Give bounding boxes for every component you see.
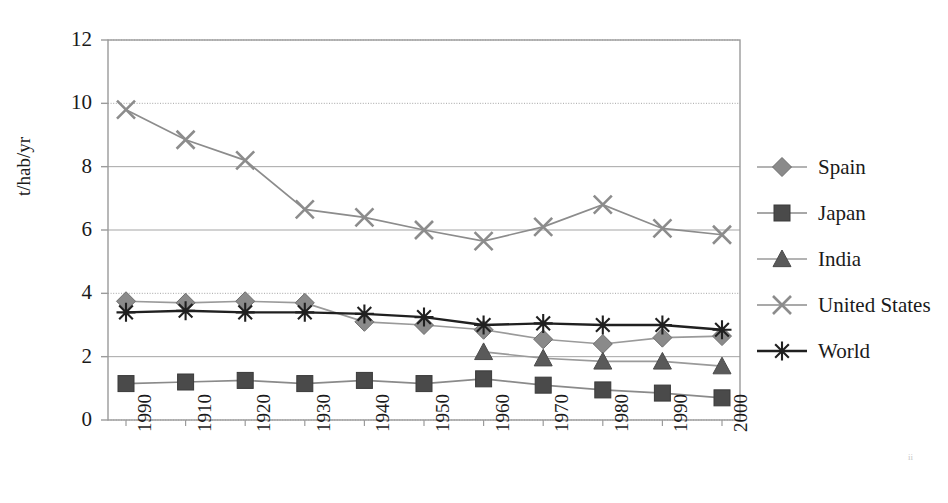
marker-cross [117, 101, 135, 119]
y-tick-label: 0 [52, 409, 92, 430]
marker-square [237, 372, 253, 388]
legend-label: India [818, 247, 861, 272]
marker-asterisk [176, 301, 195, 320]
legend-marker-square-icon [756, 202, 808, 224]
legend-marker-diamond-icon [756, 156, 808, 178]
marker-asterisk [593, 316, 612, 335]
x-tick-label: 1960 [493, 394, 512, 432]
marker-square [476, 371, 492, 387]
legend-label: Japan [818, 201, 866, 226]
y-axis-title: t/hab/yr [14, 137, 33, 196]
marker-asterisk [653, 316, 672, 335]
x-tick-label: 2000 [731, 394, 750, 432]
marker-square [535, 377, 551, 393]
y-tick-label: 6 [52, 219, 92, 240]
marker-diamond [593, 335, 612, 354]
marker-cross [475, 232, 493, 250]
series-line [126, 110, 722, 241]
x-tick-label: 1910 [195, 394, 214, 432]
x-tick-label: 1990 [135, 394, 154, 432]
marker-asterisk [534, 314, 553, 333]
x-tick-label: 1920 [254, 394, 273, 432]
marker-square [774, 205, 790, 221]
y-tick-label: 12 [52, 29, 92, 50]
y-tick-label: 10 [52, 92, 92, 113]
legend-item-united-states[interactable]: United States [756, 282, 946, 328]
legend-marker-cross-icon [756, 294, 808, 316]
legend-label: United States [818, 293, 931, 318]
marker-asterisk [773, 342, 792, 361]
marker-diamond [773, 158, 792, 177]
marker-triangle [475, 343, 493, 360]
marker-square [118, 376, 134, 392]
series-united-states [117, 101, 731, 250]
y-tick-label: 8 [52, 156, 92, 177]
marker-square [416, 376, 432, 392]
x-tick-label: 1980 [612, 394, 631, 432]
x-tick-label: 1970 [552, 394, 571, 432]
y-tick-label: 4 [52, 282, 92, 303]
marker-asterisk [295, 303, 314, 322]
marker-cross [594, 196, 612, 214]
legend-label: World [818, 339, 870, 364]
legend-item-spain[interactable]: Spain [756, 144, 946, 190]
legend-marker-triangle-icon [756, 248, 808, 270]
chart-legend: SpainJapanIndiaUnited StatesWorld [756, 144, 946, 374]
marker-cross [534, 218, 552, 236]
x-tick-label: 1990 [671, 394, 690, 432]
marker-asterisk [415, 308, 434, 327]
marker-square [714, 390, 730, 406]
legend-marker-asterisk-icon [756, 340, 808, 362]
legend-item-world[interactable]: World [756, 328, 946, 374]
marker-asterisk [117, 303, 136, 322]
marker-square [356, 372, 372, 388]
x-tick-label: 1950 [433, 394, 452, 432]
legend-label: Spain [818, 155, 866, 180]
y-tick-label: 2 [52, 346, 92, 367]
marker-asterisk [236, 303, 255, 322]
legend-item-india[interactable]: India [756, 236, 946, 282]
marker-square [297, 376, 313, 392]
marker-square [178, 374, 194, 390]
marker-cross [177, 131, 195, 149]
legend-item-japan[interactable]: Japan [756, 190, 946, 236]
x-tick-label: 1930 [314, 394, 333, 432]
marker-asterisk [355, 304, 374, 323]
marker-square [654, 385, 670, 401]
scan-artifact: ii [908, 452, 913, 462]
x-tick-label: 1940 [373, 394, 392, 432]
marker-asterisk [713, 320, 732, 339]
marker-square [595, 382, 611, 398]
marker-asterisk [474, 316, 493, 335]
chart-figure: t/hab/yr 024681012 199019101920193019401… [0, 0, 948, 503]
